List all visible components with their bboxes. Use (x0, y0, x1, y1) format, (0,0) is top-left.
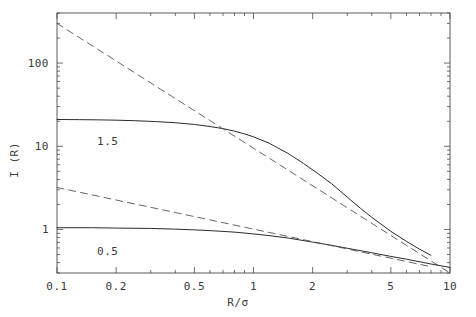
x-axis-title: R/σ (227, 296, 248, 309)
y-tick-label: 10 (19, 140, 49, 153)
x-tick-label: 1 (250, 280, 257, 293)
curve-label-0-5: 0.5 (97, 245, 118, 258)
x-tick-label: 0.2 (105, 280, 126, 293)
x-tick-label: 0.5 (184, 280, 205, 293)
plot-canvas (0, 0, 476, 317)
x-tick-label: 10 (443, 280, 457, 293)
x-tick-label: 5 (387, 280, 394, 293)
y-axis-title: I (R) (8, 142, 21, 178)
chart-figure: 0.10.20.512510 110100 1.50.5 R/σ I (R) (0, 0, 476, 317)
y-tick-label: 100 (19, 57, 49, 70)
y-tick-label: 1 (19, 223, 49, 236)
x-tick-label: 2 (309, 280, 316, 293)
x-tick-label: 0.1 (46, 280, 67, 293)
curve-label-1-5: 1.5 (97, 135, 118, 148)
